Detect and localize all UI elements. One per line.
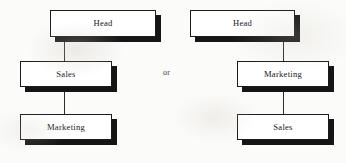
node-left-marketing[interactable]: Marketing — [20, 114, 112, 140]
node-right-marketing[interactable]: Marketing — [237, 61, 329, 87]
node-left-head[interactable]: Head — [50, 10, 156, 37]
node-left-sales[interactable]: Sales — [20, 61, 112, 87]
node-right-head[interactable]: Head — [190, 10, 295, 37]
node-label: Marketing — [264, 70, 302, 79]
node-label: Sales — [273, 123, 292, 132]
node-label: Marketing — [47, 123, 85, 132]
figure-canvas: Head Sales Marketing or Head Marketing — [0, 0, 346, 163]
node-right-sales[interactable]: Sales — [237, 114, 329, 140]
node-label: Head — [93, 19, 112, 28]
node-label: Sales — [56, 70, 75, 79]
or-separator-label: or — [163, 68, 170, 77]
node-label: Head — [233, 19, 252, 28]
